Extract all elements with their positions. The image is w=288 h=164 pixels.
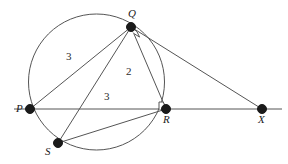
segment-QX <box>131 27 262 109</box>
geometry-canvas <box>0 0 288 164</box>
segment-PQ <box>30 27 131 109</box>
point-S <box>54 139 63 148</box>
point-Q <box>127 23 136 32</box>
segment-QR <box>131 27 166 109</box>
geometry-figure: P Q R S X 3 2 3 <box>0 0 288 164</box>
point-X <box>258 105 267 114</box>
segment-SR <box>58 109 166 143</box>
point-R <box>162 105 171 114</box>
segment-QS <box>58 27 131 143</box>
point-P <box>26 105 35 114</box>
